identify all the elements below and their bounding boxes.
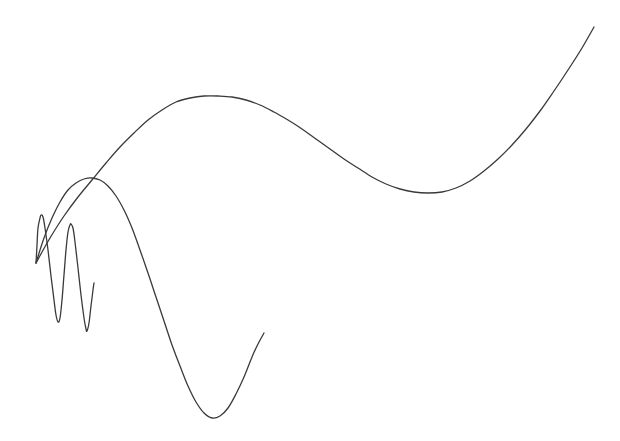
- curves-plot: [0, 0, 620, 441]
- drawing-canvas[interactable]: [0, 0, 620, 441]
- canvas-background: [0, 0, 620, 441]
